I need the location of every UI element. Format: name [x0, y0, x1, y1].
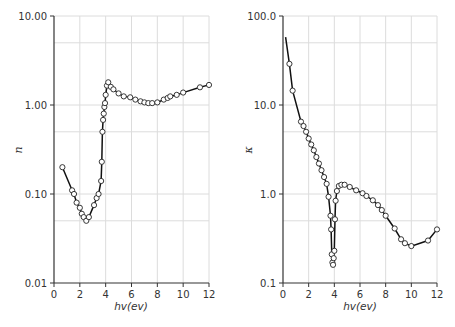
data-point: [290, 88, 295, 93]
data-point: [324, 181, 329, 186]
data-point: [287, 61, 292, 66]
data-point: [100, 117, 105, 122]
data-point: [101, 111, 106, 116]
data-point: [329, 227, 334, 232]
data-point: [331, 256, 336, 261]
data-point: [197, 85, 202, 90]
y-tick-label: 100.0: [247, 11, 276, 22]
x-tick-label: 6: [128, 289, 134, 300]
data-point: [326, 194, 331, 199]
data-markers: [60, 80, 212, 224]
data-point: [304, 129, 309, 134]
data-point: [383, 213, 388, 218]
figure-canvas: 10.001.000.100.01 024681012 hv(ev) n 100…: [0, 0, 455, 327]
data-point: [100, 129, 105, 134]
x-tick-label: 2: [77, 289, 83, 300]
data-point: [332, 217, 337, 222]
y-tick-label: 10.0: [254, 100, 276, 111]
data-point: [332, 248, 337, 253]
data-point: [301, 123, 306, 128]
x-tick-label: 4: [102, 289, 108, 300]
data-point: [168, 94, 173, 99]
data-point: [128, 95, 133, 100]
x-tick-label: 2: [305, 289, 311, 300]
x-tick-label: 8: [382, 289, 388, 300]
figure: 10.001.000.100.01 024681012 hv(ev) n 100…: [0, 0, 455, 327]
chart-kappa: 100.010.01.00.1 024681012 hv(ev) κ: [242, 11, 443, 313]
data-point: [370, 198, 375, 203]
data-point: [102, 101, 107, 106]
y-tick-label: 0.1: [260, 278, 276, 289]
x-tick-label: 8: [154, 289, 160, 300]
y-tick-label: 1.0: [260, 189, 276, 200]
data-point: [330, 262, 335, 267]
chart-n: 10.001.000.100.01 024681012 hv(ev) n: [12, 11, 215, 313]
y-tick-label: 10.00: [18, 11, 47, 22]
data-point: [364, 193, 369, 198]
data-point: [99, 159, 104, 164]
data-point: [103, 92, 108, 97]
data-point: [434, 227, 439, 232]
y-axis-label: κ: [242, 146, 255, 155]
data-point: [379, 207, 384, 212]
x-tick-label: 0: [280, 289, 286, 300]
data-point: [111, 87, 116, 92]
x-tick-label: 0: [51, 289, 57, 300]
data-point: [311, 148, 316, 153]
data-point: [155, 100, 160, 105]
x-tick-labels: 024681012: [280, 283, 444, 300]
data-point: [174, 92, 179, 97]
x-tick-label: 4: [331, 289, 337, 300]
data-point: [347, 184, 352, 189]
data-point: [96, 191, 101, 196]
data-point: [409, 243, 414, 248]
data-point: [354, 188, 359, 193]
data-point: [60, 165, 65, 170]
data-point: [91, 203, 96, 208]
data-point: [133, 97, 138, 102]
data-markers: [287, 61, 440, 267]
data-point: [392, 226, 397, 231]
data-point: [150, 101, 155, 106]
x-tick-label: 12: [203, 289, 216, 300]
x-tick-labels: 024681012: [51, 283, 216, 300]
y-tick-label: 0.01: [25, 278, 47, 289]
data-point: [425, 238, 430, 243]
data-point: [316, 161, 321, 166]
y-axis-label: n: [12, 146, 25, 153]
data-point: [328, 213, 333, 218]
data-point: [314, 154, 319, 159]
data-point: [334, 188, 339, 193]
grid-lines: [54, 16, 209, 283]
grid-lines: [283, 16, 437, 283]
data-point: [86, 215, 91, 220]
data-point: [71, 191, 76, 196]
data-point: [206, 82, 211, 87]
x-axis-label: hv(ev): [114, 300, 148, 312]
data-point: [181, 90, 186, 95]
data-point: [116, 91, 121, 96]
data-line: [62, 82, 209, 221]
y-tick-label: 1.00: [25, 100, 47, 111]
x-tick-label: 10: [405, 289, 418, 300]
x-tick-label: 12: [431, 289, 444, 300]
data-point: [77, 205, 82, 210]
data-point: [342, 182, 347, 187]
data-point: [74, 200, 79, 205]
data-point: [121, 94, 126, 99]
data-point: [99, 178, 104, 183]
x-tick-label: 6: [357, 289, 363, 300]
data-point: [375, 203, 380, 208]
data-point: [306, 136, 311, 141]
data-point: [402, 241, 407, 246]
x-axis-label: hv(ev): [343, 300, 377, 312]
data-point: [333, 198, 338, 203]
data-point: [321, 174, 326, 179]
data-point: [309, 142, 314, 147]
y-tick-label: 0.10: [25, 189, 47, 200]
data-point: [319, 168, 324, 173]
x-tick-label: 10: [177, 289, 190, 300]
